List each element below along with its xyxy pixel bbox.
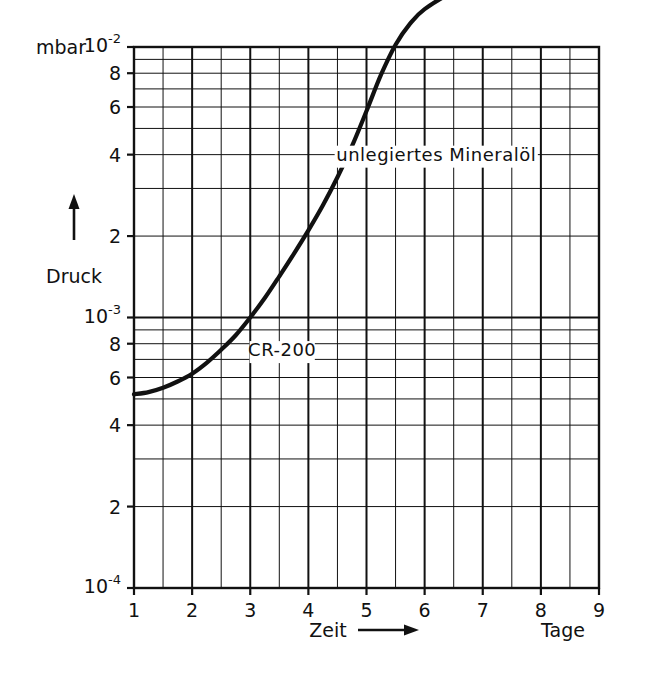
series-label: unlegiertes Mineralöl [336,144,536,165]
x-tick-label: 2 [186,599,198,621]
x-tick-label: 1 [128,599,140,621]
x-axis-unit-label: Tage [540,619,585,641]
series-label: CR-200 [248,339,316,360]
x-axis-label: Zeit [309,619,346,641]
pressure-vs-time-chart: 10-2864210-3864210-4 123456789 unlegiert… [0,0,652,673]
x-tick-label: 6 [419,599,431,621]
y-tick-label: 4 [109,414,121,436]
x-tick-label: 5 [360,599,372,621]
y-tick-label: 2 [109,225,121,247]
x-tick-label: 9 [593,599,605,621]
y-tick-label: 10-4 [84,572,121,597]
x-axis-label-group: Zeit [309,619,419,641]
y-tick-label: 6 [109,96,121,118]
unit-label: mbar [36,36,86,58]
x-tick-label: 3 [244,599,256,621]
y-tick-label: 10-3 [84,302,121,327]
y-axis-label: Druck [46,265,102,287]
x-tick-label: 4 [302,599,314,621]
druck-arrow-head [69,194,80,209]
y-tick-label: 10-2 [84,31,121,56]
y-tick-label: 6 [109,367,121,389]
x-tick-label: 7 [477,599,489,621]
y-axis-label-group: Druck [46,194,102,287]
y-tick-label: 2 [109,496,121,518]
y-tick-labels: 10-2864210-3864210-4 [84,31,121,597]
y-tick-label: 8 [109,62,121,84]
x-tick-label: 8 [535,599,547,621]
x-tick-labels: 123456789 [128,599,605,621]
chart-canvas: 10-2864210-3864210-4 123456789 unlegiert… [0,0,652,673]
y-tick-label: 8 [109,333,121,355]
zeit-arrow-head [404,625,419,636]
y-tick-label: 4 [109,144,121,166]
